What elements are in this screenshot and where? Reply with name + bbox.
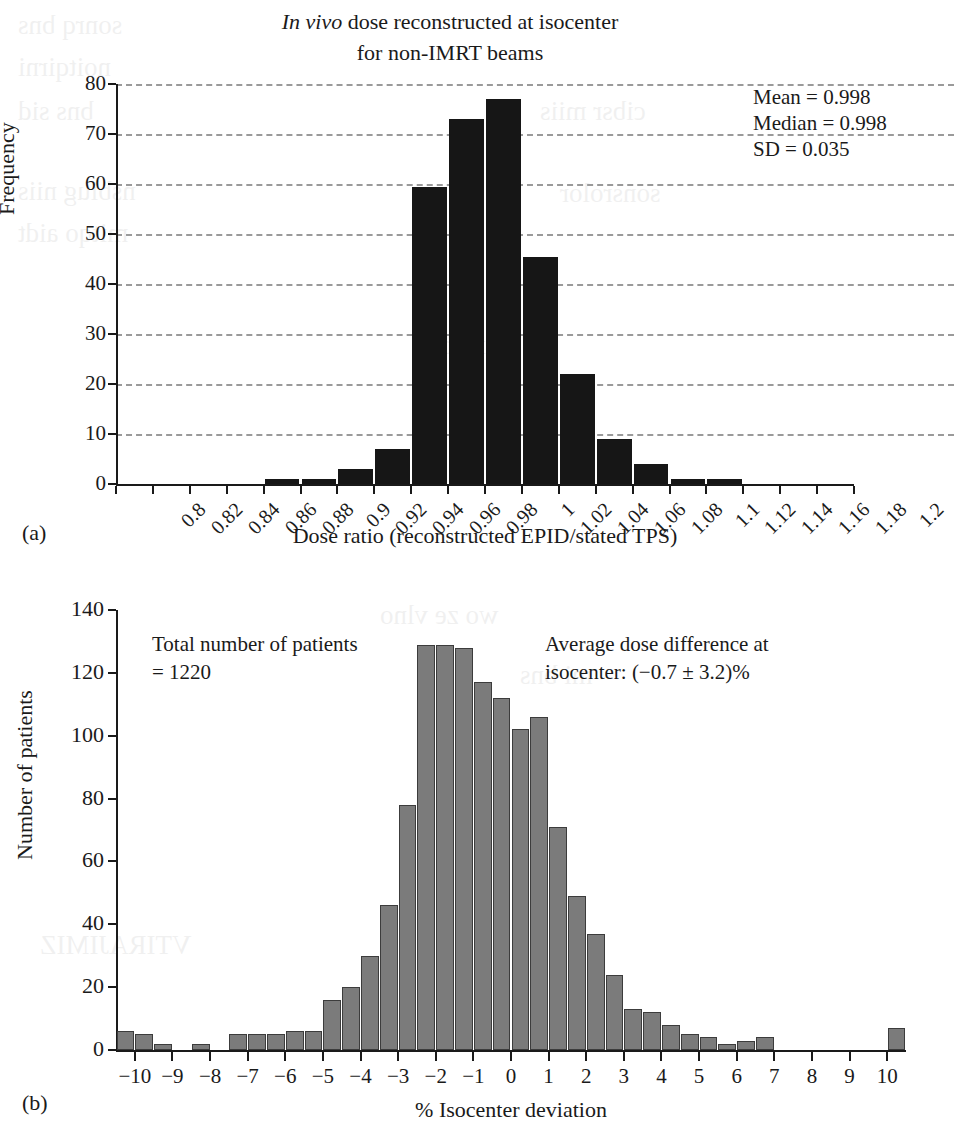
histogram-bar bbox=[756, 1037, 774, 1050]
y-tick-label: 70 bbox=[54, 123, 106, 144]
y-tick bbox=[108, 333, 116, 335]
histogram-bar bbox=[436, 645, 454, 1050]
histogram-bar bbox=[737, 1041, 755, 1050]
histogram-bar bbox=[449, 119, 484, 484]
y-tick-label: 60 bbox=[46, 849, 104, 870]
y-tick-label: 50 bbox=[54, 223, 106, 244]
x-tick bbox=[189, 486, 191, 494]
x-tick bbox=[773, 1052, 775, 1061]
histogram-bar bbox=[888, 1028, 906, 1050]
panel-b-y-axis bbox=[116, 610, 118, 1050]
x-tick bbox=[373, 486, 375, 494]
y-tick bbox=[108, 483, 116, 485]
histogram-bar bbox=[512, 729, 530, 1050]
histogram-bar bbox=[361, 956, 379, 1050]
histogram-bar bbox=[597, 439, 632, 484]
histogram-bar bbox=[624, 1009, 642, 1050]
y-tick bbox=[108, 986, 116, 988]
histogram-bar bbox=[587, 934, 605, 1050]
y-tick-label: 80 bbox=[46, 787, 104, 808]
x-tick bbox=[435, 1052, 437, 1061]
histogram-bar bbox=[493, 698, 511, 1050]
panel-a-y-axis bbox=[116, 84, 118, 484]
x-tick bbox=[585, 1052, 587, 1061]
y-tick-label: 30 bbox=[54, 323, 106, 344]
x-tick bbox=[548, 1052, 550, 1061]
y-tick bbox=[108, 1049, 116, 1051]
histogram-bar bbox=[707, 479, 742, 484]
x-tick bbox=[360, 1052, 362, 1061]
y-tick-label: 0 bbox=[54, 473, 106, 494]
x-tick bbox=[623, 1052, 625, 1061]
histogram-bar bbox=[417, 645, 435, 1050]
histogram-bar bbox=[338, 469, 373, 484]
histogram-bar bbox=[700, 1037, 718, 1050]
x-tick bbox=[397, 1052, 399, 1061]
y-tick bbox=[108, 383, 116, 385]
panel-a-title: In vivo dose reconstructed at isocenter … bbox=[0, 6, 900, 68]
panel-a-title-line1: In vivo dose reconstructed at isocenter bbox=[0, 6, 900, 37]
histogram-bar bbox=[549, 827, 567, 1050]
histogram-bar bbox=[342, 987, 360, 1050]
x-tick bbox=[632, 486, 634, 494]
histogram-bar bbox=[643, 1012, 661, 1050]
histogram-bar bbox=[135, 1034, 153, 1050]
x-tick bbox=[779, 486, 781, 494]
y-tick-label: 40 bbox=[54, 273, 106, 294]
grid-line-y bbox=[116, 134, 954, 136]
panel-b-histogram: Total number of patients = 1220 Average … bbox=[0, 560, 957, 1136]
x-tick bbox=[171, 1052, 173, 1061]
histogram-bar bbox=[560, 374, 595, 484]
x-tick bbox=[152, 486, 154, 494]
x-tick bbox=[660, 1052, 662, 1061]
figure-container: In vivo dose reconstructed at isocenter … bbox=[0, 0, 957, 1136]
y-tick-label: 120 bbox=[46, 661, 104, 682]
y-tick bbox=[108, 672, 116, 674]
y-tick bbox=[108, 183, 116, 185]
x-tick bbox=[849, 1052, 851, 1061]
x-tick bbox=[558, 486, 560, 494]
x-tick bbox=[336, 486, 338, 494]
histogram-bar bbox=[154, 1044, 172, 1050]
y-tick bbox=[108, 860, 116, 862]
y-tick bbox=[108, 798, 116, 800]
histogram-bar bbox=[265, 479, 300, 484]
histogram-bar bbox=[399, 805, 417, 1050]
y-tick-label: 10 bbox=[54, 423, 106, 444]
y-tick-label: 60 bbox=[54, 173, 106, 194]
x-tick bbox=[284, 1052, 286, 1061]
histogram-bar bbox=[229, 1034, 247, 1050]
histogram-bar bbox=[117, 1031, 135, 1050]
y-tick bbox=[108, 233, 116, 235]
histogram-bar bbox=[286, 1031, 304, 1050]
panel-b-x-axis-title: % Isocenter deviation bbox=[116, 1097, 906, 1123]
histogram-bar bbox=[718, 1044, 736, 1050]
y-tick-label: 80 bbox=[54, 73, 106, 94]
x-tick bbox=[322, 1052, 324, 1061]
x-tick bbox=[698, 1052, 700, 1061]
y-tick-label: 20 bbox=[46, 975, 104, 996]
x-tick bbox=[472, 1052, 474, 1061]
histogram-bar bbox=[486, 99, 521, 484]
histogram-bar bbox=[192, 1044, 210, 1050]
histogram-bar bbox=[412, 187, 447, 485]
x-tick bbox=[886, 1052, 888, 1061]
x-tick bbox=[595, 486, 597, 494]
y-tick bbox=[108, 433, 116, 435]
x-tick bbox=[736, 1052, 738, 1061]
y-tick bbox=[108, 609, 116, 611]
histogram-bar bbox=[568, 896, 586, 1050]
panel-a-histogram: In vivo dose reconstructed at isocenter … bbox=[0, 0, 957, 560]
y-tick bbox=[108, 735, 116, 737]
y-tick bbox=[108, 133, 116, 135]
y-tick bbox=[108, 283, 116, 285]
x-tick bbox=[226, 486, 228, 494]
histogram-bar bbox=[681, 1034, 699, 1050]
histogram-bar bbox=[248, 1034, 266, 1050]
histogram-bar bbox=[530, 717, 548, 1050]
panel-a-label: (a) bbox=[22, 520, 46, 546]
x-tick bbox=[811, 1052, 813, 1061]
x-tick bbox=[115, 486, 117, 494]
histogram-bar bbox=[662, 1025, 680, 1050]
x-tick bbox=[134, 1052, 136, 1061]
